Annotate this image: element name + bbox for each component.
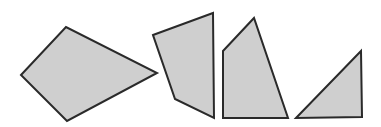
- shapes-diagram: [0, 0, 381, 127]
- shape-right-triangle: [296, 51, 362, 118]
- shape-irregular-quadrilateral-2: [223, 18, 288, 118]
- shape-kite-quadrilateral: [21, 27, 157, 121]
- shape-irregular-quadrilateral-1: [153, 13, 214, 118]
